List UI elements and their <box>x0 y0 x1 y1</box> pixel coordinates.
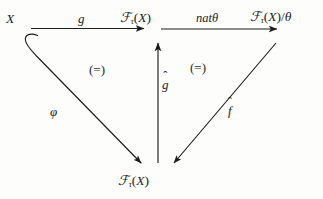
edge-label-phi: φ <box>50 105 57 118</box>
edge-label-f-hat: ˆf <box>228 104 232 117</box>
cell-marker-left: (=) <box>89 63 105 76</box>
script-f-glyph: ℱ <box>120 9 131 25</box>
paren-group: (X) <box>134 10 151 25</box>
edge-label-nat-theta: natθ <box>196 12 218 25</box>
node-label-f-tau-x-bottom: ℱτ(X) <box>118 174 149 188</box>
script-f-glyph: ℱ <box>250 8 261 24</box>
theta-glyph: θ <box>285 9 292 24</box>
commutative-diagram: X ℱτ(X) ℱτ(X)/θ ℱτ(X) g natθ ˆg φ ˆf (=)… <box>0 0 323 199</box>
cell-marker-right: (=) <box>190 61 206 74</box>
edge-label-g-hat: ˆg <box>162 78 169 91</box>
node-label-f-tau-x-mod-theta: ℱτ(X)/θ <box>250 10 292 24</box>
hat-accent-wrapper: ˆg <box>162 78 169 91</box>
node-label-f-tau-x-top: ℱτ(X) <box>120 11 151 25</box>
diagram-arrows-layer <box>0 0 323 199</box>
hat-accent-wrapper: ˆf <box>228 104 232 117</box>
paren-group: (X)/ <box>264 9 285 24</box>
paren-group: (X) <box>132 173 149 188</box>
arrow-phi <box>25 34 141 163</box>
script-f-glyph: ℱ <box>118 172 129 188</box>
hat-accent: ˆ <box>228 96 232 108</box>
edge-label-g: g <box>78 12 85 25</box>
node-label-x: X <box>6 12 14 26</box>
hat-accent: ˆ <box>163 70 167 82</box>
